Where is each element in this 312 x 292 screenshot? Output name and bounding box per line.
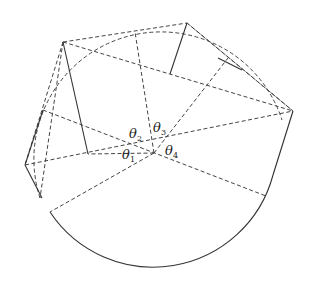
radial-3 bbox=[50, 153, 154, 212]
chord-5 bbox=[187, 23, 293, 111]
upper-right-solid bbox=[218, 58, 242, 70]
svg-text:θ: θ bbox=[153, 120, 161, 135]
dashed-circle-arc bbox=[34, 32, 282, 198]
right-edge-solid bbox=[273, 111, 293, 175]
svg-text:1: 1 bbox=[130, 155, 135, 164]
label-theta3: θ 3 bbox=[153, 120, 166, 137]
inner-solid-left bbox=[63, 42, 88, 154]
label-theta2: θ 2 bbox=[129, 126, 142, 143]
inner-solid-top bbox=[170, 23, 187, 74]
svg-text:θ: θ bbox=[165, 143, 173, 158]
label-theta1: θ 1 bbox=[122, 147, 135, 164]
svg-text:4: 4 bbox=[173, 151, 178, 160]
svg-text:θ: θ bbox=[129, 126, 137, 141]
svg-text:3: 3 bbox=[161, 128, 166, 137]
geometry-diagram: θ 2 θ 3 θ 1 θ 4 bbox=[0, 0, 312, 292]
label-theta4: θ 4 bbox=[165, 143, 178, 160]
solid-circle-arc bbox=[50, 175, 273, 267]
svg-text:θ: θ bbox=[122, 147, 130, 162]
outer-polygon bbox=[63, 23, 293, 111]
radial-4 bbox=[88, 153, 154, 154]
left-lower-solid bbox=[25, 165, 42, 198]
svg-text:2: 2 bbox=[137, 134, 142, 143]
chord-1 bbox=[63, 42, 293, 111]
chord-4 bbox=[40, 42, 63, 198]
